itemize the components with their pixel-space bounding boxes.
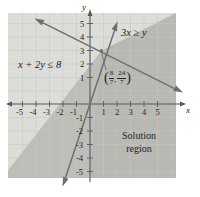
solution-region-line2: region bbox=[108, 143, 170, 156]
x-tick--4: -4 bbox=[30, 108, 37, 117]
y-tick-4: 4 bbox=[80, 33, 84, 42]
y-axis-label: y bbox=[82, 3, 86, 12]
coordinate-comma: , bbox=[114, 75, 116, 84]
x-tick--5: -5 bbox=[16, 108, 23, 117]
x-tick--2: -2 bbox=[57, 108, 64, 117]
y-tick--4: -4 bbox=[76, 154, 83, 163]
y-tick-2: 2 bbox=[80, 60, 84, 69]
x-tick-3: 3 bbox=[129, 108, 133, 117]
inequality-label-right: 3x ≥ y bbox=[121, 28, 147, 39]
y-tick--5: -5 bbox=[76, 168, 83, 177]
inequality-graph-figure bbox=[0, 0, 200, 197]
y-tick--3: -3 bbox=[76, 141, 83, 150]
y-tick-5: 5 bbox=[80, 20, 84, 29]
intersection-point-label: (87,247) bbox=[104, 69, 131, 86]
y-tick--2: -2 bbox=[76, 127, 83, 136]
x-tick-4: 4 bbox=[142, 108, 146, 117]
x-axis-label: x bbox=[186, 106, 190, 115]
x-tick--3: -3 bbox=[43, 108, 50, 117]
solution-region-line1: Solution bbox=[108, 130, 170, 143]
x-tick-1: 1 bbox=[102, 108, 106, 117]
y-tick-1: 1 bbox=[80, 74, 84, 83]
solution-region-caption: Solution region bbox=[108, 130, 170, 155]
y-denominator: 7 bbox=[117, 79, 126, 86]
paren-close: ) bbox=[126, 70, 131, 85]
y-tick--1: -1 bbox=[76, 114, 83, 123]
x-tick-5: 5 bbox=[156, 108, 160, 117]
y-tick-3: 3 bbox=[80, 47, 84, 56]
y-coordinate-fraction: 247 bbox=[117, 70, 126, 86]
inequality-label-left: x + 2y ≤ 8 bbox=[18, 60, 61, 71]
x-tick-2: 2 bbox=[115, 108, 119, 117]
